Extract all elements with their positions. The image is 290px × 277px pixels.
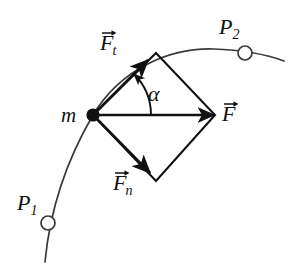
force-tangential-subscript: t <box>112 43 116 58</box>
physics-force-diagram: m α F Ft Fn P1 P2 <box>0 0 290 277</box>
angle-label: α <box>148 83 160 105</box>
diagram-canvas <box>0 0 290 277</box>
force-normal-subscript: n <box>125 183 132 198</box>
vector-arrow-overbar-icon <box>224 100 239 107</box>
point-p2-marker <box>238 46 252 60</box>
force-normal-label: Fn <box>113 172 133 194</box>
vector-arrow-overbar-icon <box>115 169 130 176</box>
mass-point-dot <box>86 108 99 121</box>
point-p1-subscript: 1 <box>30 203 37 218</box>
point-p2-symbol: P <box>219 14 232 39</box>
trajectory-curve <box>45 49 284 262</box>
point-p1-symbol: P <box>17 190 30 215</box>
vector-arrow-overbar-icon <box>102 29 117 36</box>
vector-Ft <box>93 60 148 115</box>
vector-Fn <box>93 115 150 173</box>
point-p1-marker <box>41 216 55 230</box>
force-parallelogram <box>93 53 215 181</box>
point-p2-subscript: 2 <box>232 27 239 42</box>
force-tangential-label: Ft <box>100 32 117 54</box>
point-p1-label: P1 <box>17 192 37 214</box>
point-p2-label: P2 <box>219 16 239 38</box>
mass-label: m <box>61 105 76 126</box>
force-resultant-label: F <box>222 103 235 125</box>
